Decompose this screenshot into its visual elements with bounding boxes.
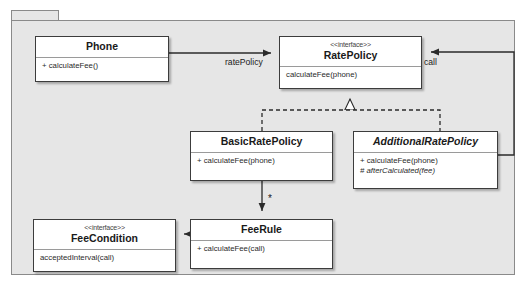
class-box-feerule[interactable]: FeeRule + calculateFee(call) <box>190 219 333 269</box>
class-header-feerule: FeeRule <box>191 220 332 241</box>
edge-label-ratepolicy: ratePolicy <box>225 57 263 67</box>
class-box-phone[interactable]: Phone + calculateFee() <box>35 36 169 82</box>
class-name-feecondition: FeeCondition <box>38 232 171 245</box>
class-header-ratepolicy: <<interface>> RatePolicy <box>280 37 421 67</box>
uml-class-diagram-canvas: RatePolicy (association, label ratePolic… <box>0 0 531 291</box>
class-member: acceptedInterval(call) <box>40 253 169 263</box>
class-header-phone: Phone <box>36 37 168 58</box>
class-members-phone: + calculateFee() <box>36 58 168 75</box>
class-box-basicratepolicy[interactable]: BasicRatePolicy + calculateFee(phone) <box>190 131 333 181</box>
class-stereotype-ratepolicy: <<interface>> <box>284 40 417 49</box>
class-member: # afterCalculated(fee) <box>360 166 491 176</box>
class-box-feecondition[interactable]: <<interface>> FeeCondition acceptedInter… <box>33 219 176 272</box>
class-box-ratepolicy[interactable]: <<interface>> RatePolicy calculateFee(ph… <box>279 36 422 89</box>
class-name-ratepolicy: RatePolicy <box>284 49 417 62</box>
class-name-phone: Phone <box>40 40 164 53</box>
class-header-additionalratepolicy: AdditionalRatePolicy <box>354 132 497 153</box>
class-members-additionalratepolicy: + calculateFee(phone) # afterCalculated(… <box>354 153 497 180</box>
class-box-additionalratepolicy[interactable]: AdditionalRatePolicy + calculateFee(phon… <box>353 131 498 189</box>
class-header-basicratepolicy: BasicRatePolicy <box>191 132 332 153</box>
class-name-additionalratepolicy: AdditionalRatePolicy <box>358 135 493 148</box>
class-member: + calculateFee(phone) <box>360 156 491 166</box>
class-member: calculateFee(phone) <box>286 70 415 80</box>
class-members-ratepolicy: calculateFee(phone) <box>280 67 421 84</box>
class-stereotype-feecondition: <<interface>> <box>38 223 171 232</box>
class-member: + calculateFee(phone) <box>197 156 326 166</box>
class-header-feecondition: <<interface>> FeeCondition <box>34 220 175 250</box>
class-member: + calculateFee(call) <box>197 244 326 254</box>
class-members-feerule: + calculateFee(call) <box>191 241 332 258</box>
class-name-feerule: FeeRule <box>195 223 328 236</box>
class-name-basicratepolicy: BasicRatePolicy <box>195 135 328 148</box>
class-members-feecondition: acceptedInterval(call) <box>34 250 175 267</box>
class-member: + calculateFee() <box>42 61 162 71</box>
edge-label-call: call <box>424 57 437 67</box>
class-members-basicratepolicy: + calculateFee(phone) <box>191 153 332 170</box>
edge-label-multiplicity: * <box>268 193 272 204</box>
